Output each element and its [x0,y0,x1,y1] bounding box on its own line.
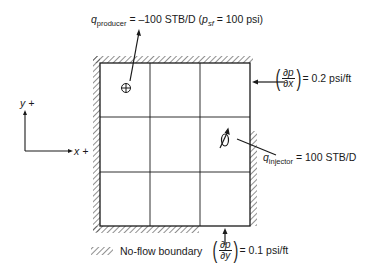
gradient-x-label: (∂p∂x)= 0.2 psi/ft [274,66,351,90]
producer-rate-label: qproducer = –100 STB/D (psf = 100 psi) [91,14,263,28]
no-flow-boundary-top [93,56,253,63]
gradient-y-label: (∂p∂y)= 0.1 psi/ft [211,238,288,262]
injector-well-icon [220,129,229,148]
x-axis-arrowhead [68,149,73,153]
injector-rate-label: qinjector = 100 STB/D [263,152,356,166]
legend-no-flow-label: No-flow boundary [120,246,202,257]
reservoir-diagram [0,0,373,280]
y-axis-label: y + [20,98,34,109]
producer-well-icon [122,84,131,93]
legend-hatch-swatch [91,247,113,255]
y-axis-arrowhead [23,110,27,115]
coordinate-axes [25,112,71,151]
no-flow-boundary-left [93,56,100,232]
x-axis-label: x + [74,146,88,157]
no-flow-boundary-bottom [93,226,199,233]
producer-leader-arrow [130,29,141,81]
